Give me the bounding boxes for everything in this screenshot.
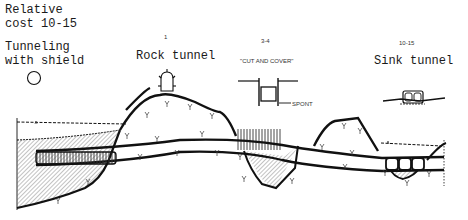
- tunnel-methods-diagram: Relative cost 10-15 Tunneling with shiel…: [0, 0, 468, 220]
- horseshoe-rock-tunnel-icon: [158, 69, 176, 91]
- rectangular-trench-icon: [238, 78, 298, 106]
- circle-shield-icon: [28, 72, 41, 85]
- twin-box-sink-tunnel-icon: [383, 91, 445, 104]
- cross-section-drawing: [0, 0, 468, 220]
